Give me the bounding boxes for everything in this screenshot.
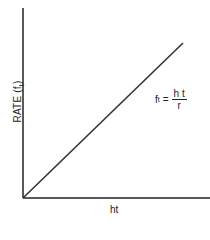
formula-annotation: ft = h tr bbox=[155, 88, 187, 111]
y-axis-label: RATE (ft) bbox=[12, 62, 25, 142]
rate-line bbox=[23, 43, 183, 198]
x-axis-label: ht bbox=[110, 204, 118, 215]
